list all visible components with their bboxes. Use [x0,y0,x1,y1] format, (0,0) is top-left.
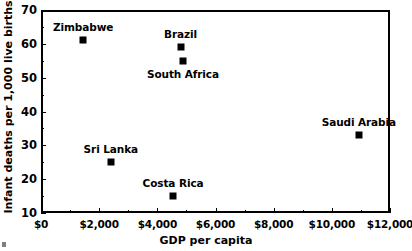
data-point-label: Sri Lanka [84,143,138,155]
data-point-label: Zimbabwe [53,21,113,33]
data-point-label: Saudi Arabia [322,116,396,128]
data-point-marker [355,132,362,139]
y-axis-tick-label: 10 [1,206,37,220]
y-axis-tick-label: 40 [1,105,37,119]
y-axis-tick [41,44,46,45]
data-point-label: Brazil [164,28,197,40]
y-axis-tick [41,112,46,113]
x-axis-tick [332,208,333,213]
y-axis-tick [41,145,46,146]
chart-page: Infant deaths per 1,000 live births 1020… [0,0,412,251]
y-axis-tick-label: 70 [1,3,37,17]
x-axis-tick [274,208,275,213]
y-axis-minor-tick [41,196,44,197]
x-axis-minor-tick [70,210,71,213]
y-axis-minor-tick [41,162,44,163]
y-axis-tick-label: 50 [1,71,37,85]
y-axis-tick [41,213,46,214]
y-axis-tick [41,78,46,79]
scan-artifact [2,242,6,247]
y-axis-tick-label: 60 [1,37,37,51]
x-axis-minor-tick [361,210,362,213]
y-axis-tick [41,179,46,180]
data-point-marker [179,57,186,64]
data-point-marker [170,193,177,200]
y-axis-tick-label: 20 [1,172,37,186]
data-point-marker [107,159,114,166]
data-point-marker [80,37,87,44]
x-axis-tick [41,208,42,213]
data-point-marker [177,44,184,51]
y-axis-tick [41,10,46,11]
x-axis-tick [157,208,158,213]
y-axis-minor-tick [41,95,44,96]
x-axis-tick [216,208,217,213]
data-point-label: South Africa [147,68,219,80]
y-axis-tick-label: 30 [1,138,37,152]
x-axis-tick-label: $4,000 [138,218,177,230]
x-axis-minor-tick [186,210,187,213]
x-axis-tick-label: $12,000 [367,218,412,230]
plot-area: ZimbabweBrazilSouth AfricaSri LankaCosta… [41,10,390,213]
x-axis-minor-tick [303,210,304,213]
x-axis-tick-label: $6,000 [196,218,235,230]
x-axis-minor-tick [245,210,246,213]
data-point-label: Costa Rica [143,177,204,189]
x-axis-title: GDP per capita [0,234,412,247]
x-axis-tick-label: $2,000 [79,218,118,230]
y-axis-minor-tick [41,61,44,62]
x-axis-tick-label: $8,000 [254,218,293,230]
y-axis-minor-tick [41,128,44,129]
x-axis-tick [99,208,100,213]
x-axis-tick-label: $0 [34,218,48,230]
x-axis-tick-label: $10,000 [309,218,355,230]
y-axis-minor-tick [41,27,44,28]
x-axis-minor-tick [128,210,129,213]
x-axis-tick [390,208,391,213]
